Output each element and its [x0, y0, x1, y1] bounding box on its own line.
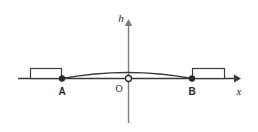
- x-axis-label: x: [236, 85, 242, 97]
- right-support-block: [193, 69, 225, 79]
- left-support-block: [31, 69, 62, 79]
- origin-marker: [126, 76, 132, 82]
- point-b-marker: [189, 75, 195, 81]
- point-a-label: A: [58, 86, 65, 97]
- point-a-marker: [59, 75, 65, 81]
- figure-container: A B O h x: [0, 0, 258, 132]
- point-b-label: B: [188, 86, 195, 97]
- x-axis-arrowhead: [234, 75, 241, 83]
- h-axis-label: h: [118, 12, 124, 24]
- origin-label: O: [115, 83, 122, 94]
- beam-diagram: A B O h x: [0, 0, 258, 132]
- h-axis-arrowhead: [125, 19, 132, 26]
